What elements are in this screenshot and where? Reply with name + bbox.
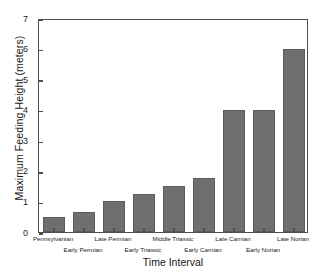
y-axis-tick-label: 4 bbox=[2, 106, 28, 115]
x-axis-tick-label: Late Carnian bbox=[215, 236, 250, 242]
y-axis-tick-labels: 01234567 bbox=[0, 0, 36, 273]
y-axis-tick-mark bbox=[39, 111, 43, 112]
plot-area bbox=[38, 19, 308, 233]
bar bbox=[223, 110, 245, 232]
bar bbox=[283, 49, 305, 232]
y-axis-tick-label: 3 bbox=[2, 137, 28, 146]
y-axis-tick-label: 5 bbox=[2, 76, 28, 85]
x-axis-tick-mark bbox=[233, 228, 234, 232]
x-axis-title: Time Interval bbox=[38, 256, 308, 268]
x-axis-tick-mark bbox=[83, 228, 84, 232]
bar bbox=[163, 186, 185, 232]
bar bbox=[133, 194, 155, 232]
x-axis-tick-mark bbox=[143, 228, 144, 232]
y-axis-tick-mark bbox=[39, 142, 43, 143]
y-axis-tick-mark bbox=[39, 203, 43, 204]
y-axis-tick-mark bbox=[39, 50, 43, 51]
y-axis-tick-mark bbox=[39, 172, 43, 173]
x-axis-tick-mark bbox=[173, 228, 174, 232]
y-axis-tick-mark bbox=[39, 80, 43, 81]
x-axis-tick-label: Early Permian bbox=[64, 247, 103, 253]
y-axis-tick-label: 2 bbox=[2, 167, 28, 176]
chart-figure: Maximum Feeding Height (meters) 01234567… bbox=[0, 0, 334, 273]
x-axis-tick-mark bbox=[293, 228, 294, 232]
x-axis-tick-mark bbox=[113, 228, 114, 232]
x-axis-tick-label: Early Triassic bbox=[125, 247, 162, 253]
y-axis-tick-label: 1 bbox=[2, 198, 28, 207]
x-axis-tick-label: Late Norian bbox=[277, 236, 309, 242]
x-axis-tick-label: Late Permian bbox=[95, 236, 132, 242]
y-axis-tick-label: 7 bbox=[2, 15, 28, 24]
bar bbox=[253, 110, 275, 232]
x-axis-tick-label: Pennsylvanian bbox=[33, 236, 73, 242]
y-axis-tick-mark bbox=[39, 19, 43, 20]
x-axis-tick-mark bbox=[263, 228, 264, 232]
x-axis-tick-label: Early Carnian bbox=[184, 247, 222, 253]
x-axis-tick-label: Middle Triassic bbox=[153, 236, 194, 242]
y-axis-tick-label: 6 bbox=[2, 45, 28, 54]
x-axis-tick-mark bbox=[53, 228, 54, 232]
x-axis-tick-mark bbox=[203, 228, 204, 232]
bar bbox=[193, 178, 215, 232]
x-axis-tick-label: Early Norian bbox=[246, 247, 280, 253]
